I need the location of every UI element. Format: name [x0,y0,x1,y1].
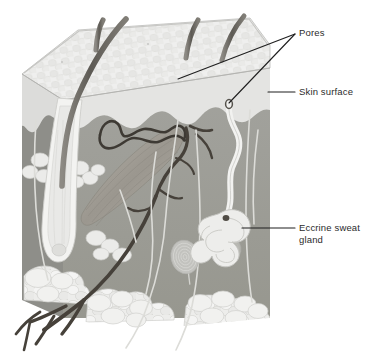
label-pores: Pores [299,27,325,39]
label-skin-surface: Skin surface [299,86,353,98]
skin-cross-section-figure: Pores Skin surface Eccrine sweat gland [0,0,392,363]
skin-diagram-illustration [0,0,392,363]
sebaceous-gland [91,165,105,176]
label-eccrine-sweat-gland: Eccrine sweat gland [299,222,385,245]
skin-block [16,16,270,350]
